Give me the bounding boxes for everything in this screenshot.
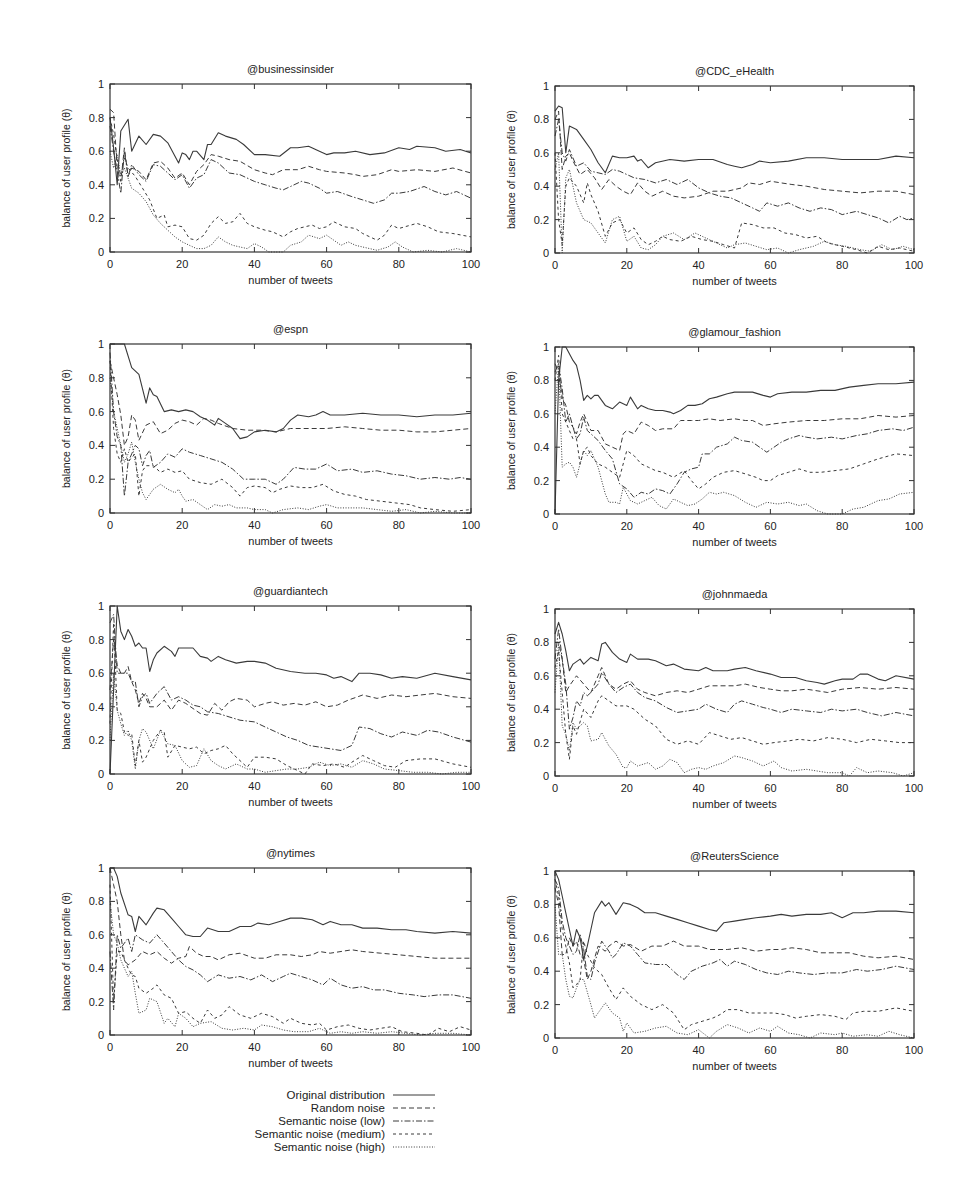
x-tick-label: 100: [462, 1041, 480, 1053]
series-line: [110, 673, 471, 774]
y-tick-label: 0.8: [89, 372, 104, 384]
y-axis-label: balance of user profile (θ): [60, 892, 72, 1011]
series-line: [110, 935, 471, 1010]
series-line: [555, 106, 914, 173]
x-tick-label: 0: [552, 782, 558, 794]
x-tick-label: 40: [692, 782, 704, 794]
y-tick-label: 1: [98, 78, 104, 90]
legend-item-semantic-medium: Semantic noise (medium): [195, 1127, 435, 1140]
x-axis-label: number of tweets: [248, 535, 333, 547]
y-axis-label: balance of user profile (θ): [505, 110, 517, 229]
y-tick-label: 0.6: [89, 145, 104, 157]
x-tick-label: 0: [552, 1044, 558, 1056]
x-tick-label: 80: [836, 782, 848, 794]
x-tick-label: 80: [393, 258, 405, 270]
x-tick-label: 100: [905, 1044, 923, 1056]
y-tick-label: 0.6: [89, 929, 104, 941]
x-axis-label: number of tweets: [692, 1060, 777, 1072]
y-tick-label: 0.4: [534, 441, 549, 453]
x-tick-label: 100: [905, 782, 923, 794]
y-axis-label: balance of user profile (θ): [505, 633, 517, 752]
chart-panel: @CDC_eHealth02040608010000.20.40.60.81nu…: [505, 65, 923, 287]
y-tick-label: 0.2: [534, 475, 549, 487]
legend-swatch-short-dash: [393, 1130, 435, 1138]
y-tick-label: 0.2: [89, 212, 104, 224]
chart-title: @espn: [273, 323, 308, 335]
y-tick-label: 1: [543, 80, 549, 92]
series-line: [110, 118, 471, 185]
x-tick-label: 60: [320, 1041, 332, 1053]
legend-label: Random noise: [311, 1102, 385, 1114]
y-tick-label: 0.2: [89, 996, 104, 1008]
y-tick-label: 0: [543, 770, 549, 782]
chart-title: @nytimes: [266, 847, 316, 859]
y-tick-label: 1: [543, 341, 549, 353]
y-tick-label: 0: [98, 1029, 104, 1041]
series-line: [555, 642, 914, 776]
series-line: [555, 119, 914, 222]
y-tick-label: 0: [98, 768, 104, 780]
x-tick-label: 0: [107, 258, 113, 270]
y-tick-label: 0.2: [534, 737, 549, 749]
x-tick-label: 20: [621, 259, 633, 271]
x-tick-label: 60: [764, 1044, 776, 1056]
y-tick-label: 0.4: [89, 439, 104, 451]
y-tick-label: 0.6: [534, 932, 549, 944]
y-axis-label: balance of user profile (θ): [60, 630, 72, 749]
y-axis-label: balance of user profile (θ): [505, 371, 517, 490]
series-line: [110, 623, 471, 774]
x-axis-label: number of tweets: [692, 536, 777, 548]
x-tick-label: 60: [764, 782, 776, 794]
y-tick-label: 1: [98, 862, 104, 874]
x-tick-label: 40: [248, 1041, 260, 1053]
legend-label: Original distribution: [287, 1089, 385, 1101]
series-line: [110, 885, 471, 1035]
chart-title: @johnmaeda: [702, 588, 768, 600]
x-tick-label: 40: [692, 520, 704, 532]
chart-title: @businessinsider: [247, 63, 334, 75]
x-tick-label: 20: [176, 780, 188, 792]
x-tick-label: 20: [621, 782, 633, 794]
legend-label: Semantic noise (medium): [255, 1128, 385, 1140]
chart-title: @glamour_fashion: [688, 326, 781, 338]
chart-panel: @glamour_fashion02040608010000.20.40.60.…: [505, 326, 923, 548]
x-axis-label: number of tweets: [248, 1057, 333, 1069]
y-tick-label: 0.6: [89, 667, 104, 679]
y-tick-label: 0.4: [534, 703, 549, 715]
legend-label: Semantic noise (low): [278, 1115, 385, 1127]
y-tick-label: 1: [543, 603, 549, 615]
legend-item-semantic-low: Semantic noise (low): [195, 1114, 435, 1127]
chart-title: @CDC_eHealth: [695, 65, 774, 77]
series-line: [555, 622, 914, 684]
legend-label: Semantic noise (high): [274, 1141, 385, 1153]
chart-panel: @johnmaeda02040608010000.20.40.60.81numb…: [505, 588, 923, 810]
y-tick-label: 0.2: [89, 473, 104, 485]
x-tick-label: 80: [393, 1041, 405, 1053]
legend-swatch-dashed: [393, 1104, 435, 1112]
series-line: [110, 901, 471, 1035]
legend-swatch-dashdot: [393, 1117, 435, 1125]
y-tick-label: 0.4: [534, 180, 549, 192]
series-line: [555, 347, 914, 514]
x-tick-label: 80: [836, 1044, 848, 1056]
legend-item-original: Original distribution: [195, 1088, 435, 1101]
x-tick-label: 80: [393, 780, 405, 792]
x-tick-label: 60: [764, 520, 776, 532]
series-line: [555, 355, 914, 489]
chart-grid: @businessinsider02040608010000.20.40.60.…: [0, 0, 976, 1080]
series-line: [110, 614, 471, 750]
y-tick-label: 0.4: [534, 965, 549, 977]
plot-frame: [110, 868, 471, 1035]
legend-swatch-solid: [393, 1091, 435, 1099]
series-line: [110, 344, 471, 439]
x-tick-label: 100: [462, 780, 480, 792]
x-tick-label: 40: [248, 519, 260, 531]
series-line: [110, 151, 471, 252]
x-tick-label: 0: [552, 259, 558, 271]
y-tick-label: 0.8: [89, 634, 104, 646]
y-tick-label: 0.8: [534, 374, 549, 386]
y-tick-label: 0.8: [534, 636, 549, 648]
series-line: [110, 109, 471, 185]
x-axis-label: number of tweets: [248, 274, 333, 286]
y-axis-label: balance of user profile (θ): [505, 895, 517, 1014]
